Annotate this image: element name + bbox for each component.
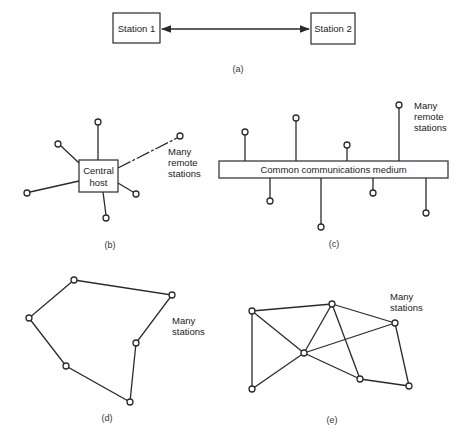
station-node-icon (133, 191, 139, 197)
station-node-icon (318, 224, 324, 230)
many-remote-label-3: stations (168, 168, 201, 179)
station-node-icon (169, 292, 175, 298)
star-link (103, 192, 106, 215)
star-link (118, 183, 133, 192)
ring-links (29, 280, 172, 402)
panel-e-mesh-topology: Many stations (e) (249, 291, 423, 425)
caption-d: (d) (102, 413, 113, 423)
station-node-icon (249, 308, 255, 314)
station-node-icon (423, 210, 429, 216)
station-node-icon (95, 119, 101, 125)
station-node-icon (63, 363, 69, 369)
station-node-icon (24, 190, 30, 196)
central-host-label-1: Central (83, 165, 114, 176)
station-node-icon (301, 350, 307, 356)
many-remote-label-2: remote (168, 157, 198, 168)
many-stations-label-1: Many (172, 315, 195, 326)
star-link (30, 181, 79, 192)
station-1-label: Station 1 (118, 23, 156, 34)
caption-b: (b) (105, 240, 116, 250)
many-stations-label-2: stations (172, 326, 205, 337)
many-remote-label-1: Many (414, 100, 437, 111)
caption-c: (c) (329, 239, 340, 249)
station-2-label: Station 2 (314, 23, 352, 34)
mesh-link (360, 379, 409, 386)
caption-e: (e) (327, 415, 338, 425)
many-stations-label-2: stations (390, 302, 423, 313)
panel-c-bus-topology: Common communications medium Many remote… (219, 100, 448, 249)
many-remote-label-2: remote (414, 111, 444, 122)
station-node-icon (344, 142, 350, 148)
station-node-icon (396, 102, 402, 108)
many-remote-label-1: Many (168, 146, 191, 157)
mesh-link (332, 304, 395, 323)
panel-d-ring-topology: Many stations (d) (26, 277, 205, 423)
station-node-icon (26, 315, 32, 321)
star-link (61, 146, 79, 163)
central-host-label-2: host (90, 177, 108, 188)
many-remote-label-3: stations (414, 122, 447, 133)
mesh-link (304, 323, 395, 353)
station-node-icon (249, 386, 255, 392)
station-node-icon (177, 133, 183, 139)
mesh-link (395, 323, 409, 386)
panel-a-point-to-point: Station 1 Station 2 (a) (113, 13, 355, 74)
station-node-icon (55, 141, 61, 147)
station-node-icon (133, 340, 139, 346)
station-node-icon (267, 198, 273, 204)
mesh-link (252, 304, 332, 311)
station-node-icon (370, 190, 376, 196)
station-node-icon (357, 376, 363, 382)
station-node-icon (392, 320, 398, 326)
many-stations-label-1: Many (390, 291, 413, 302)
mesh-link (252, 311, 304, 353)
station-node-icon (71, 277, 77, 283)
mesh-link (252, 353, 304, 389)
network-topologies-diagram: Station 1 Station 2 (a) Central host Man… (0, 0, 472, 436)
station-node-icon (293, 115, 299, 121)
station-node-icon (103, 215, 109, 221)
panel-b-star-topology: Central host Many remote stations (b) (24, 119, 201, 250)
caption-a: (a) (233, 64, 244, 74)
station-node-icon (329, 301, 335, 307)
common-medium-label: Common communications medium (260, 164, 406, 175)
station-node-icon (242, 129, 248, 135)
station-node-icon (127, 399, 133, 405)
station-node-icon (406, 383, 412, 389)
